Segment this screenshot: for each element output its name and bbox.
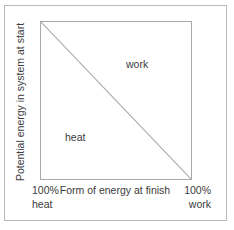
- x-axis-label: Form of energy at finish: [58, 183, 172, 197]
- x-axis-label-text: Form of energy at finish: [58, 183, 172, 197]
- x-axis-left-value: 100%: [32, 183, 59, 197]
- x-axis-right-value: 100%: [166, 183, 211, 197]
- plot-area: work heat: [40, 21, 192, 180]
- energy-partition-figure: Potential energy in system at start work…: [0, 0, 234, 230]
- x-axis-left-caption: 100% heat: [32, 183, 59, 211]
- region-label-work: work: [126, 58, 148, 71]
- x-axis-right-unit: work: [166, 197, 211, 211]
- region-label-heat: heat: [65, 131, 85, 144]
- y-axis-label: Potential energy in system at start: [12, 21, 28, 183]
- x-axis-left-unit: heat: [32, 197, 59, 211]
- x-axis-right-caption: 100% work: [166, 183, 211, 211]
- diagonal-boundary-line: [41, 22, 191, 179]
